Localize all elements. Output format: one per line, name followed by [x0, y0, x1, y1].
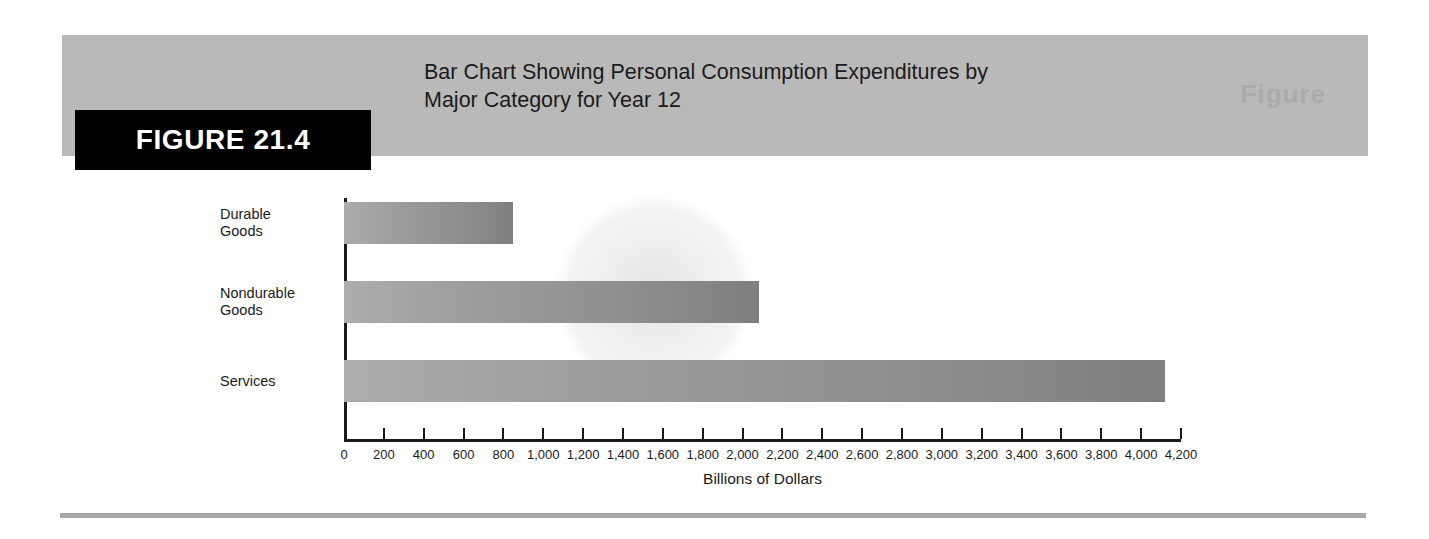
bottom-divider-rule — [60, 513, 1366, 518]
x-tick-mark — [861, 428, 863, 439]
bar-durable-goods — [344, 202, 513, 244]
x-tick-mark — [1021, 428, 1023, 439]
x-tick-mark — [463, 428, 465, 439]
category-label-line: Services — [220, 373, 338, 390]
x-tick-label: 2,000 — [726, 447, 759, 462]
x-tick-label: 200 — [373, 447, 395, 462]
x-tick-mark — [1100, 428, 1102, 439]
x-tick-label: 1,200 — [567, 447, 600, 462]
x-tick-label: 0 — [340, 447, 347, 462]
x-tick-mark — [941, 428, 943, 439]
category-label-line: Goods — [220, 223, 338, 240]
x-tick-label: 800 — [493, 447, 515, 462]
x-tick-label: 4,200 — [1165, 447, 1198, 462]
category-label-line: Nondurable — [220, 285, 338, 302]
x-tick-mark — [901, 428, 903, 439]
x-tick-mark — [1060, 428, 1062, 439]
x-tick-mark — [742, 428, 744, 439]
bar-chart: DurableGoodsNondurableGoodsServices 0200… — [0, 0, 1429, 539]
x-tick-mark — [1180, 428, 1182, 439]
x-tick-mark — [981, 428, 983, 439]
x-tick-label: 4,000 — [1125, 447, 1158, 462]
x-axis-title: Billions of Dollars — [344, 470, 1181, 488]
x-tick-mark — [781, 428, 783, 439]
x-tick-mark — [383, 428, 385, 439]
x-tick-label: 2,200 — [766, 447, 799, 462]
x-tick-label: 2,400 — [806, 447, 839, 462]
category-label-line: Goods — [220, 302, 338, 319]
x-tick-label: 2,800 — [886, 447, 919, 462]
category-label-services: Services — [220, 373, 338, 390]
x-tick-label: 1,600 — [647, 447, 680, 462]
x-tick-label: 3,800 — [1085, 447, 1118, 462]
x-tick-label: 600 — [453, 447, 475, 462]
x-tick-label: 400 — [413, 447, 435, 462]
category-label-line: Durable — [220, 206, 338, 223]
x-tick-mark — [423, 428, 425, 439]
x-tick-label: 3,000 — [926, 447, 959, 462]
bar-services — [344, 360, 1165, 402]
x-tick-label: 2,600 — [846, 447, 879, 462]
x-tick-mark — [662, 428, 664, 439]
x-tick-mark — [702, 428, 704, 439]
x-tick-mark — [821, 428, 823, 439]
x-tick-label: 1,000 — [527, 447, 560, 462]
x-tick-label: 1,800 — [686, 447, 719, 462]
x-tick-mark — [502, 428, 504, 439]
x-tick-label: 3,200 — [965, 447, 998, 462]
x-axis-line — [344, 439, 1181, 442]
x-tick-label: 1,400 — [607, 447, 640, 462]
x-tick-mark — [1140, 428, 1142, 439]
bar-nondurable-goods — [344, 281, 759, 323]
category-label-durable-goods: DurableGoods — [220, 206, 338, 240]
x-tick-label: 3,600 — [1045, 447, 1078, 462]
category-axis-labels: DurableGoodsNondurableGoodsServices — [228, 198, 338, 442]
x-tick-mark — [542, 428, 544, 439]
x-tick-mark — [622, 428, 624, 439]
category-label-nondurable-goods: NondurableGoods — [220, 285, 338, 319]
x-tick-mark — [582, 428, 584, 439]
x-tick-label: 3,400 — [1005, 447, 1038, 462]
